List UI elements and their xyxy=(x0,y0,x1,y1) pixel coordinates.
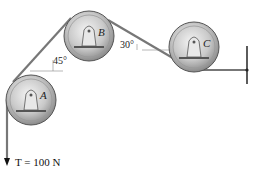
tension-label: T = 100 N xyxy=(15,156,60,168)
tension-arrow xyxy=(4,158,10,166)
pulley-diagram: A B C 45° 30° T = 100 N xyxy=(0,0,254,174)
pulley-c xyxy=(169,22,219,72)
diagram-svg: A B C 45° 30° T = 100 N xyxy=(0,0,254,174)
angle-45: 45° xyxy=(53,55,67,66)
pulley-a xyxy=(6,75,56,125)
label-a: A xyxy=(39,89,47,101)
pulley-b xyxy=(64,11,114,61)
label-c: C xyxy=(203,37,211,49)
angle-30: 30° xyxy=(120,39,134,50)
label-b: B xyxy=(98,26,105,38)
